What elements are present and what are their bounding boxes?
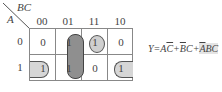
expr-plus: + [173, 43, 180, 54]
row-variable-label: A [7, 13, 14, 25]
cell-1-10: 1 [108, 55, 134, 81]
cell-0-00: 0 [30, 29, 56, 55]
col-header-10: 10 [107, 15, 133, 27]
col-variable-label: BC [17, 1, 31, 13]
col-header-01: 01 [55, 15, 81, 27]
cell-0-01: 1 [56, 29, 82, 55]
col-header-00: 00 [29, 15, 55, 27]
col-header-11: 11 [81, 15, 107, 27]
karnaugh-map-grid: 0 1 1 0 1 1 0 1 [29, 28, 133, 81]
row-header-0: 0 [14, 35, 26, 47]
cell-1-11: 0 [82, 55, 108, 81]
cell-0-10: 0 [108, 29, 134, 55]
cell-0-11: 1 [82, 29, 108, 55]
expr-term3-bc: BC [205, 43, 218, 54]
row-header-1: 1 [14, 61, 26, 73]
expr-term2-c: C [186, 43, 193, 54]
cell-1-00: 1 [30, 55, 56, 81]
expr-lhs: Y= [148, 43, 160, 54]
cell-1-01: 1 [56, 55, 82, 81]
boolean-expression: Y=AC+BC+ABC [148, 43, 218, 54]
